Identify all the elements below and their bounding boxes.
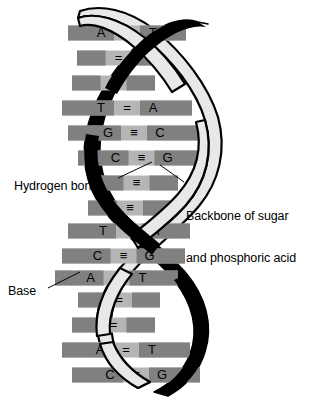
- base-letter-right: G: [157, 367, 167, 382]
- base-pair-rung: ≡: [95, 175, 178, 190]
- base-pair-rung: CG≡: [62, 248, 185, 263]
- base-block-left: [72, 76, 101, 91]
- base-block-right: [127, 318, 156, 333]
- base-block-left: [68, 224, 116, 239]
- hydrogen-bond-symbol: =: [122, 342, 130, 357]
- base-pair-rung: AT=: [62, 342, 190, 357]
- base-letter-left: C: [111, 150, 120, 165]
- hydrogen-bond-symbol: ≡: [126, 200, 134, 215]
- base-block-right: [130, 271, 179, 286]
- hydrogen-bonds-label: Hydrogen bonds: [14, 179, 104, 193]
- base-letter-left: C: [93, 248, 102, 263]
- base-pair-rung: =: [72, 317, 155, 332]
- base-pair-rung: TA=: [62, 100, 192, 115]
- base-letter-right: G: [162, 150, 172, 165]
- base-letter-right: C: [155, 125, 164, 140]
- base-block-right: [150, 176, 179, 191]
- backbone-label: Backbone of sugar and phosphoric acid: [186, 181, 296, 293]
- base-letter-right: T: [139, 270, 147, 285]
- base-letter-left: G: [103, 125, 113, 140]
- base-letter-left: T: [97, 100, 105, 115]
- backbone-label-line2: and phosphoric acid: [186, 251, 296, 265]
- backbone-label-line1: Backbone of sugar: [186, 209, 296, 223]
- base-letter-right: T: [148, 342, 156, 357]
- hydrogen-bond-symbol: ≡: [120, 248, 128, 263]
- base-block-left: [62, 249, 111, 264]
- base-block-right: [139, 343, 190, 358]
- base-block-left: [62, 101, 114, 116]
- base-letter-left: A: [86, 270, 95, 285]
- hydrogen-bond-symbol: ≡: [133, 175, 141, 190]
- base-label: Base: [8, 284, 36, 298]
- hydrogen-bond-symbol: ≡: [138, 150, 146, 165]
- base-letter-right: A: [149, 100, 158, 115]
- base-block-right: [132, 293, 160, 308]
- hydrogen-bond-symbol: ≡: [130, 125, 138, 140]
- base-block-right: [127, 76, 156, 91]
- dna-diagram-figure: AT==≡TA=GC≡CG≡≡≡TA=CG≡AT===AT=CG≡ Hydrog…: [0, 0, 315, 401]
- base-letter-left: T: [99, 223, 107, 238]
- hydrogen-bond-symbol: =: [123, 100, 131, 115]
- base-block-left: [77, 51, 106, 66]
